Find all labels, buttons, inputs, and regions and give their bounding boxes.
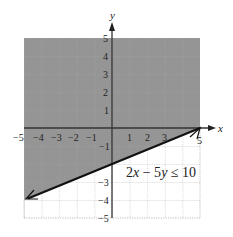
svg-text:−4: −4 [98, 195, 109, 206]
inequality-graph: x y −5 −4 −3 −2 −1 1 2 3 5 5 4 3 2 1 −1 … [0, 0, 233, 237]
svg-text:−3: −3 [51, 132, 62, 143]
y-axis-arrow-icon [109, 22, 115, 31]
svg-text:5: 5 [197, 135, 202, 146]
svg-text:3: 3 [103, 69, 108, 80]
svg-text:2: 2 [103, 87, 108, 98]
y-axis-label: y [109, 9, 115, 21]
svg-text:3: 3 [162, 132, 167, 143]
svg-text:−5: −5 [13, 132, 24, 143]
svg-text:−4: −4 [33, 132, 44, 143]
svg-text:−1: −1 [99, 141, 110, 152]
svg-text:−5: −5 [98, 213, 109, 224]
svg-text:2: 2 [145, 132, 150, 143]
svg-text:−3: −3 [98, 177, 109, 188]
svg-text:1: 1 [127, 132, 132, 143]
x-axis-arrow-icon [208, 125, 216, 131]
inequality-label: 2x − 5y ≤ 10 [126, 165, 196, 180]
svg-text:1: 1 [104, 105, 109, 116]
svg-text:5: 5 [103, 33, 108, 44]
svg-text:4: 4 [103, 51, 108, 62]
svg-text:−1: −1 [86, 132, 97, 143]
x-axis-label: x [217, 122, 223, 134]
svg-text:−2: −2 [68, 132, 79, 143]
